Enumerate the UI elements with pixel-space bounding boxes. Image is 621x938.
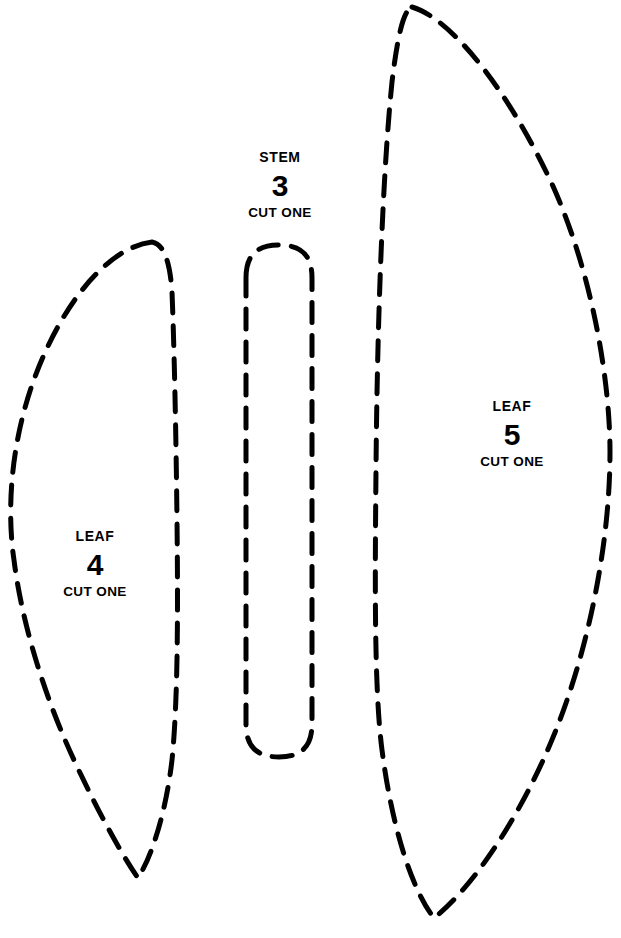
leaf-5-label: LEAF 5 CUT ONE xyxy=(462,399,562,469)
leaf-5-number: 5 xyxy=(462,420,562,450)
leaf-4-number: 4 xyxy=(50,550,140,580)
pattern-page: STEM 3 CUT ONE LEAF 4 CUT ONE LEAF 5 CUT… xyxy=(0,0,621,938)
stem-3-outline xyxy=(246,245,312,757)
leaf-4-instruction: CUT ONE xyxy=(50,585,140,599)
leaf-5-instruction: CUT ONE xyxy=(462,455,562,469)
leaf-4-kind: LEAF xyxy=(50,529,140,543)
stem-3-instruction: CUT ONE xyxy=(235,206,325,220)
stem-3-number: 3 xyxy=(235,171,325,201)
pattern-canvas xyxy=(0,0,621,938)
leaf-5-kind: LEAF xyxy=(462,399,562,413)
stem-3-kind: STEM xyxy=(235,150,325,164)
stem-3-label: STEM 3 CUT ONE xyxy=(235,150,325,220)
leaf-4-label: LEAF 4 CUT ONE xyxy=(50,529,140,599)
